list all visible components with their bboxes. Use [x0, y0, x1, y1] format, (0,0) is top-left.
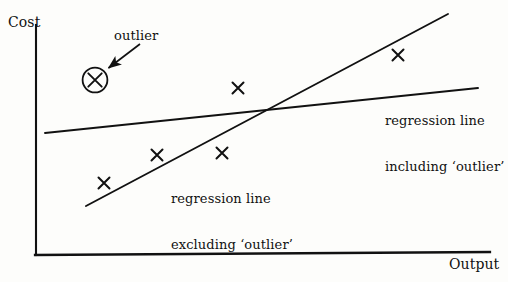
data-point-marker	[393, 50, 404, 61]
figure-outlier-regression: Cost Output outlier regression line incl…	[0, 0, 508, 282]
outlier-x-marker	[88, 73, 101, 86]
data-point-marker	[152, 150, 163, 161]
y-axis-label: Cost	[8, 14, 40, 31]
regression-including-annotation-line2: including ‘outlier’	[385, 159, 504, 174]
regression-excluding-annotation-line2: excluding ‘outlier’	[171, 237, 293, 252]
data-point-outlier	[83, 68, 108, 93]
regression-including-annotation: regression line including ‘outlier’	[385, 82, 504, 205]
data-point-marker	[99, 178, 110, 189]
regression-including-annotation-line1: regression line	[385, 113, 504, 128]
data-point-marker	[233, 83, 244, 94]
regression-excluding-annotation: regression line excluding ‘outlier’	[171, 160, 293, 282]
data-point-marker	[217, 148, 228, 159]
outlier-arrow-icon	[109, 44, 141, 68]
x-axis-label: Output	[449, 256, 499, 273]
regression-excluding-annotation-line1: regression line	[171, 191, 293, 206]
outlier-annotation-label: outlier	[114, 28, 158, 43]
